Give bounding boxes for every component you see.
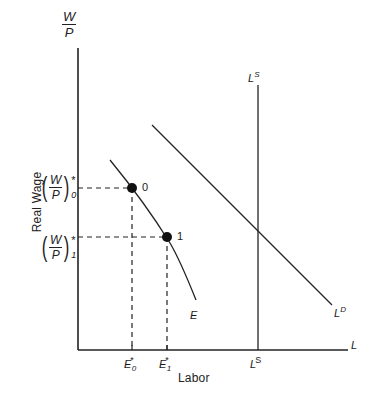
y-axis-title: W P <box>62 10 76 39</box>
employment-curve-label: E <box>190 309 197 321</box>
wp0-subscript: 0 <box>71 191 76 200</box>
wp1-scripts: * 1 <box>71 235 78 261</box>
equilibrium-point-0 <box>127 183 137 193</box>
wp0-fraction: W P <box>49 174 62 201</box>
x-axis-name-label: Labor <box>178 372 210 384</box>
wp-numerator: W <box>62 10 76 25</box>
wp1-denominator: P <box>49 248 62 261</box>
point-label-0: 0 <box>142 181 148 193</box>
wp-fraction: W P <box>62 10 76 39</box>
labor-demand-label-superscript: D <box>340 305 346 314</box>
wp0-denominator: P <box>49 188 62 201</box>
wp-denominator: P <box>62 25 76 39</box>
wp1-superscript: * <box>71 235 75 246</box>
labor-supply-label-superscript: S <box>254 70 259 79</box>
wp1-open-paren: ( <box>42 236 48 259</box>
labor-demand-line <box>152 125 332 305</box>
equilibrium-point-1 <box>162 232 172 242</box>
labor-demand-label: LD <box>334 305 346 319</box>
wp1-fraction: W P <box>49 234 62 261</box>
wp1-subscript: 1 <box>71 251 76 260</box>
wp0-close-paren: ) <box>64 176 70 199</box>
xtick-e1-subscript: 1 <box>167 364 171 373</box>
wp0-scripts: * 0 <box>71 175 78 201</box>
labor-market-diagram: W P Real Wage Labor ( W P ) * 0 ( W P ) … <box>0 0 378 405</box>
y-tick-label-wp1: ( W P ) * 1 <box>40 234 78 261</box>
x-tick-label-ls: LS <box>250 355 261 370</box>
xtick-ls-superscript: S <box>255 355 261 365</box>
x-axis-end-label: L <box>351 339 357 351</box>
wp0-superscript: * <box>71 175 75 186</box>
wp0-open-paren: ( <box>42 176 48 199</box>
wp1-numerator: W <box>49 234 62 248</box>
diagram-canvas <box>0 0 378 405</box>
y-tick-label-wp0: ( W P ) * 0 <box>40 174 78 201</box>
labor-supply-label: LS <box>248 70 259 84</box>
x-tick-label-e0: E*0 <box>124 355 136 373</box>
wp1-close-paren: ) <box>64 236 70 259</box>
x-tick-label-e1: E*1 <box>159 355 171 373</box>
xtick-e0-subscript: 0 <box>132 364 136 373</box>
point-label-1: 1 <box>177 230 183 242</box>
wp0-numerator: W <box>49 174 62 188</box>
